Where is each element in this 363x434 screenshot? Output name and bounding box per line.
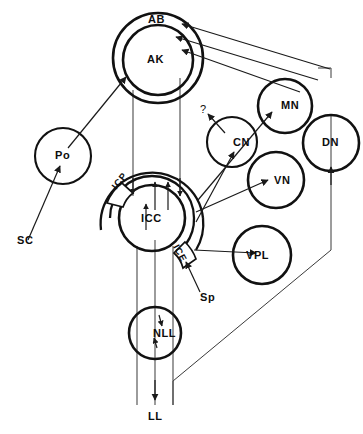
icc-shell-inner-arc-right [186,218,194,244]
frame-corner-right [318,68,331,78]
label-sp: Sp [200,292,215,303]
neuroanatomy-diagram: AB AK Po SC ? CN MN VN DN VPL ICC ICP IC… [0,0,363,434]
arrow-mn-to-ab-upper [182,24,330,69]
label-ab: AB [148,14,165,25]
arrow-po-to-ab [68,77,126,148]
label-po: Po [55,150,70,161]
lemniscal-tracts [133,78,180,405]
label-mn: MN [281,100,299,111]
label-nll: NLL [153,328,176,339]
label-ak: AK [147,54,164,65]
label-cn: CN [233,137,250,148]
projection-frame-lines [173,68,331,405]
label-dn: DN [322,137,339,148]
label-vn: VN [274,175,290,186]
diagram-canvas [0,0,363,434]
label-sc: SC [17,235,33,246]
arrow-icc-to-vn [196,180,268,212]
label-unknown: ? [200,104,207,115]
arrow-into-nll [159,315,162,326]
arrow-sp-to-ice [186,262,200,292]
label-vpl: VPL [246,250,269,261]
icc-shell-outer-arc-right [196,218,203,250]
label-icc: ICC [141,213,162,224]
arrow-icc-to-cn [196,152,234,222]
label-ll: LL [148,411,163,422]
